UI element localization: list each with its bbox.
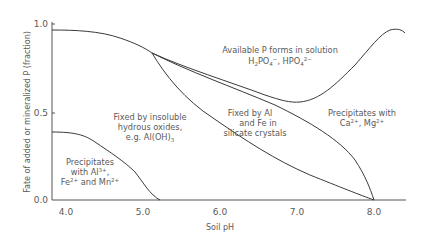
al-fe-mn-label-3: Fe2+ and Mn2+ xyxy=(61,177,120,187)
y-tick-label: 0.5 xyxy=(34,108,48,118)
hydrous-oxides-label-1: Fixed by insoluble xyxy=(113,112,186,122)
hydrous-oxides-label-2: hydrous oxides, xyxy=(118,122,182,132)
silicate-label-2: and Fe in xyxy=(239,118,276,128)
y-tick-label: 1.0 xyxy=(34,19,49,29)
x-tick-label: 7.0 xyxy=(290,207,305,217)
ca-mg-label-2: Ca2+, Mg2+ xyxy=(340,118,385,128)
x-tick-label: 4.0 xyxy=(59,207,74,217)
available-p-label: Available P forms in solution xyxy=(222,45,338,55)
x-tick-label: 6.0 xyxy=(213,207,228,217)
upper-curve xyxy=(52,29,405,102)
available-p-formula: H2PO4−, HPO42− xyxy=(248,56,312,67)
x-tick-label: 8.0 xyxy=(367,207,382,217)
x-axis-label: Soil pH xyxy=(206,223,234,232)
hydrous-oxides-label-3: e.g. Al(OH)3 xyxy=(126,132,175,143)
y-axis-label: Fate of added or mineralized P (fraction… xyxy=(23,31,32,193)
al-fe-mn-label-2: with Al3+, xyxy=(71,167,110,177)
silicate-label-1: Fixed by Al xyxy=(228,108,272,118)
al-fe-mn-label-1: Precipitates xyxy=(66,157,114,167)
silicate-label-3: silicate crystals xyxy=(223,128,286,138)
y-tick-label: 0.0 xyxy=(34,195,49,205)
phosphorus-fate-chart: 1.0 0.5 0.0 4.0 5.0 6.0 7.0 8.0 Soil pH … xyxy=(0,0,426,243)
ca-mg-label-1: Precipitates with xyxy=(328,108,396,118)
x-tick-label: 5.0 xyxy=(136,207,151,217)
